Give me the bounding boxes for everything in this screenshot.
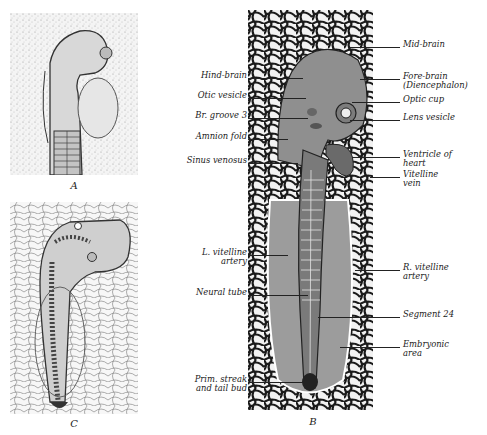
leader-embryonic-area (340, 347, 400, 348)
leader-l-vitelline-artery (248, 255, 288, 256)
label-ventricle-of-heart: Ventricle of heart (403, 150, 452, 169)
leader-br-groove-3 (248, 118, 308, 119)
label-vitelline-vein: Vitelline vein (403, 170, 438, 189)
leader-optic-cup (352, 102, 400, 103)
leader-hind-brain (248, 78, 303, 79)
embryo-c-illustration (10, 202, 138, 414)
embryo-a-illustration (10, 13, 138, 175)
label-hind-brain: Hind-brain (201, 71, 247, 80)
label-fore-brain: Fore-brain (Diencephalon) (403, 72, 468, 91)
label-otic-vesicle: Otic vesicle (198, 91, 247, 100)
panel-a-drawing (10, 13, 138, 175)
panel-b-drawing (248, 10, 373, 410)
leader-sinus-venosus (248, 163, 298, 164)
label-segment-24: Segment 24 (403, 310, 454, 319)
label-amnion-fold: Amnion fold (196, 132, 247, 141)
leader-mid-brain (350, 47, 400, 48)
label-l-vitelline-artery: L. vitelline artery (202, 248, 247, 267)
leader-vitelline-vein (370, 177, 400, 178)
leader-lens-vesicle (350, 120, 400, 121)
panel-c-caption: C (64, 418, 84, 429)
leader-r-vitelline-artery (355, 270, 400, 271)
leader-segment-24 (318, 317, 400, 318)
label-neural-tube: Neural tube (196, 288, 247, 297)
label-optic-cup: Optic cup (403, 95, 444, 104)
label-mid-brain: Mid-brain (403, 40, 445, 49)
panel-a-caption: A (64, 180, 84, 191)
leader-neural-tube (248, 295, 308, 296)
label-sinus-venosus: Sinus venosus (187, 156, 247, 165)
leader-fore-brain (360, 79, 400, 80)
panel-b-caption: B (303, 416, 323, 427)
leader-prim-streak (248, 382, 303, 383)
leader-amnion-fold (248, 139, 288, 140)
label-r-vitelline-artery: R. vitelline artery (403, 263, 449, 282)
leader-ventricle (352, 157, 400, 158)
panel-c-drawing (10, 202, 138, 414)
embryo-b-illustration (248, 10, 373, 410)
label-prim-streak-tail-bud: Prim. streak and tail bud (195, 375, 247, 394)
label-embryonic-area: Embryonic area (403, 340, 449, 359)
leader-otic-vesicle (248, 98, 306, 99)
label-lens-vesicle: Lens vesicle (403, 113, 455, 122)
label-br-groove-3: Br. groove 3 (195, 111, 247, 120)
